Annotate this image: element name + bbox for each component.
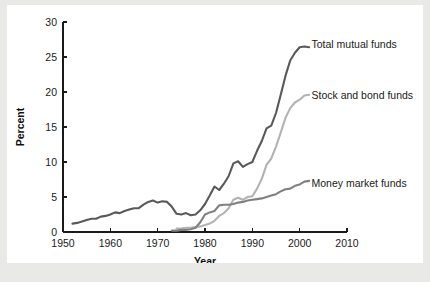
y-axis-title: Percent (14, 107, 26, 146)
x-tick-label-1950: 1950 (51, 237, 75, 249)
y-tick-label-20: 20 (45, 86, 57, 98)
x-axis-title: Year (194, 255, 216, 263)
series-label-total-mutual-funds: Total mutual funds (312, 38, 397, 50)
series-line-stock-and-bond-funds (177, 95, 310, 229)
chart-card: 0510152025301950196019701980199020002010… (7, 5, 423, 263)
x-tick-label-2000: 2000 (288, 237, 312, 249)
line-chart: 0510152025301950196019701980199020002010… (7, 5, 423, 263)
series-label-money-market-funds: Money market funds (312, 177, 407, 189)
y-tick-label-25: 25 (45, 51, 57, 63)
x-tick-label-2010: 2010 (335, 237, 359, 249)
x-tick-label-1970: 1970 (146, 237, 170, 249)
y-tick-label-30: 30 (45, 16, 57, 28)
y-tick-label-15: 15 (45, 121, 57, 133)
y-tick-label-5: 5 (51, 191, 57, 203)
y-tick-label-10: 10 (45, 156, 57, 168)
series-label-stock-and-bond-funds: Stock and bond funds (312, 89, 414, 101)
y-tick-label-0: 0 (51, 226, 57, 238)
series-line-total-mutual-funds (72, 47, 309, 224)
x-tick-label-1990: 1990 (241, 237, 265, 249)
x-tick-label-1960: 1960 (99, 237, 123, 249)
x-tick-label-1980: 1980 (193, 237, 217, 249)
series-line-money-market-funds (172, 181, 309, 231)
figure-root: 0510152025301950196019701980199020002010… (0, 0, 430, 282)
